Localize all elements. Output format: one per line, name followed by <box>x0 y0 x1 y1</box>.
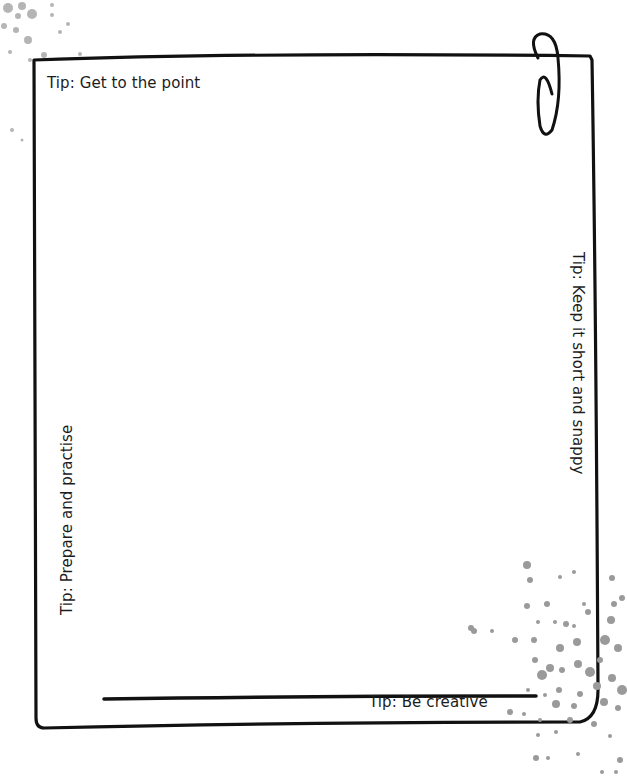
frame-outline <box>34 55 598 728</box>
tip-be-creative: Tip: Be creative <box>369 693 488 711</box>
paperclip-icon <box>533 34 559 134</box>
splatter-top-left <box>1 2 82 142</box>
tip-get-to-the-point: Tip: Get to the point <box>47 74 200 92</box>
page-frame <box>0 0 627 776</box>
tip-keep-it-short: Tip: Keep it short and snappy <box>569 252 587 475</box>
splatter-bottom-right <box>468 561 627 774</box>
tip-prepare-and-practise: Tip: Prepare and practise <box>58 425 76 615</box>
